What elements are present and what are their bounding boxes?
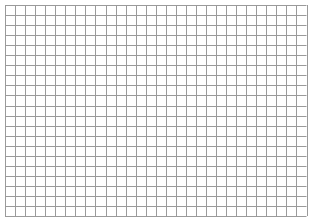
square-grid <box>0 0 311 222</box>
graph-paper-canvas <box>0 0 311 222</box>
